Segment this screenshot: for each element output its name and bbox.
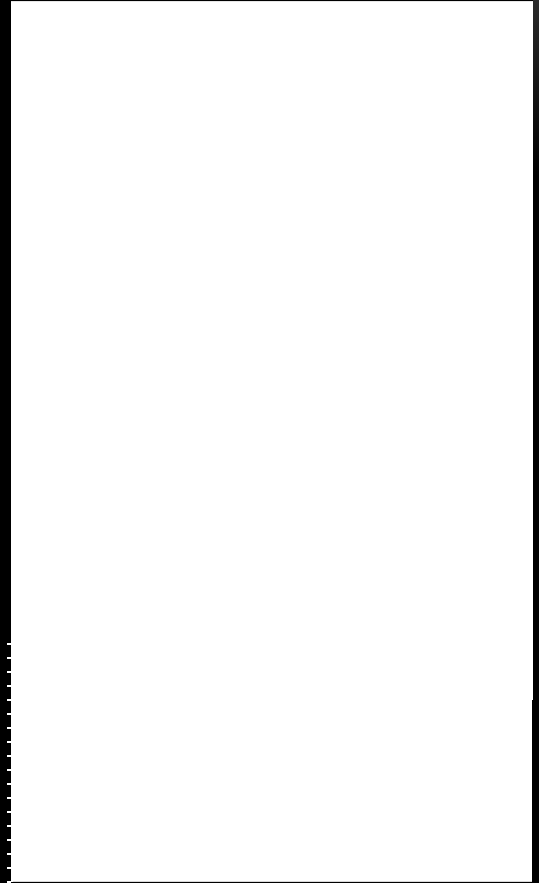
- ragged-page-edge: [7, 636, 11, 883]
- scanned-document: [0, 0, 539, 883]
- page-content: [11, 2, 533, 881]
- right-scan-margin-lower: [532, 700, 539, 883]
- blank-page: [11, 1, 533, 882]
